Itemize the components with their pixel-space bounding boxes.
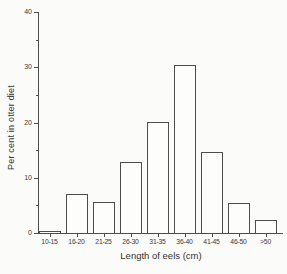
- bar-26-30: [120, 162, 142, 234]
- y-major-tick: [34, 233, 38, 234]
- bar-16-20: [66, 194, 88, 234]
- x-axis-title: Length of eels (cm): [38, 250, 284, 261]
- y-minor-tick: [36, 40, 38, 41]
- eel-length-bar-chart: Per cent in otter diet Length of eels (c…: [0, 0, 287, 274]
- y-tick-label: 0: [16, 229, 32, 237]
- y-major-tick: [34, 178, 38, 179]
- y-minor-tick: [36, 205, 38, 206]
- x-tick: [104, 234, 105, 237]
- x-tick-label: 36-40: [171, 238, 198, 246]
- bar-46-50: [228, 203, 250, 234]
- x-tick-label: 10-15: [36, 238, 63, 246]
- bar->50: [255, 220, 277, 234]
- x-tick-label: 26-30: [117, 238, 144, 246]
- y-tick-label: 10: [16, 174, 32, 182]
- y-tick-label: 20: [16, 119, 32, 127]
- x-tick-label: 31-35: [144, 238, 171, 246]
- x-tick: [131, 234, 132, 237]
- bar-36-40: [174, 65, 196, 234]
- y-tick-label: 30: [16, 63, 32, 71]
- x-tick: [239, 234, 240, 237]
- y-major-tick: [34, 12, 38, 13]
- x-tick-label: 41-45: [198, 238, 225, 246]
- y-axis-line: [38, 12, 39, 234]
- x-tick: [185, 234, 186, 237]
- x-tick-label: >50: [252, 238, 279, 246]
- y-minor-tick: [36, 150, 38, 151]
- y-tick-label: 40: [16, 8, 32, 16]
- x-tick: [50, 234, 51, 237]
- y-minor-tick: [36, 95, 38, 96]
- bar-31-35: [147, 122, 169, 234]
- y-major-tick: [34, 67, 38, 68]
- y-major-tick: [34, 123, 38, 124]
- x-tick: [212, 234, 213, 237]
- x-tick-label: 16-20: [63, 238, 90, 246]
- x-tick: [266, 234, 267, 237]
- x-tick: [77, 234, 78, 237]
- x-tick: [158, 234, 159, 237]
- x-tick-label: 21-25: [90, 238, 117, 246]
- y-axis-title: Per cent in otter diet: [6, 85, 16, 170]
- x-tick-label: 46-50: [225, 238, 252, 246]
- bar-21-25: [93, 202, 115, 234]
- bar-41-45: [201, 152, 223, 234]
